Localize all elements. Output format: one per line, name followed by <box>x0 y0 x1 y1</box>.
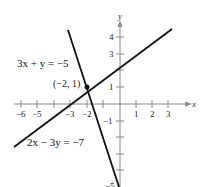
x-tick-label: −3 <box>65 109 75 119</box>
x-axis-arrow-icon <box>185 102 192 107</box>
x-tick-label: 3 <box>166 109 171 119</box>
x-axis <box>14 100 192 108</box>
y-tick-label: 3 <box>109 49 114 59</box>
y-tick-label: 1 <box>109 82 114 92</box>
x-tick-label: −6 <box>16 109 26 119</box>
x-axis-label: x <box>191 99 196 109</box>
x-tick-label: −2 <box>82 109 92 119</box>
line-2x-minus-3y <box>14 29 172 147</box>
y-tick-label: −5 <box>105 181 115 187</box>
x-tick-label: 1 <box>134 109 139 119</box>
y-tick-label: −1 <box>103 116 113 126</box>
y-axis-arrow-icon <box>118 20 123 27</box>
equation-label-2: 2x − 3y = −7 <box>27 136 85 148</box>
graph: y x −6 −5 −3 −2 1 2 3 4 3 1 −1 −5 3x + y… <box>0 0 203 187</box>
x-tick-label: 2 <box>150 109 155 119</box>
x-tick-label: −5 <box>32 109 42 119</box>
y-tick-label: 4 <box>109 32 114 42</box>
point-label: (−2, 1) <box>53 78 80 90</box>
y-axis-label: y <box>117 11 122 21</box>
intersection-point <box>85 85 90 90</box>
equation-label-1: 3x + y = −5 <box>17 57 69 69</box>
